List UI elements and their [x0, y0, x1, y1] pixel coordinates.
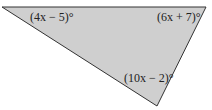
angle-label-top-right: (6x + 7)°	[157, 11, 201, 23]
triangle-diagram: (4x − 5)° (6x + 7)° (10x − 2)°	[0, 0, 212, 110]
angle-label-top-left: (4x − 5)°	[30, 11, 74, 23]
angle-label-bottom: (10x − 2)°	[124, 72, 174, 84]
